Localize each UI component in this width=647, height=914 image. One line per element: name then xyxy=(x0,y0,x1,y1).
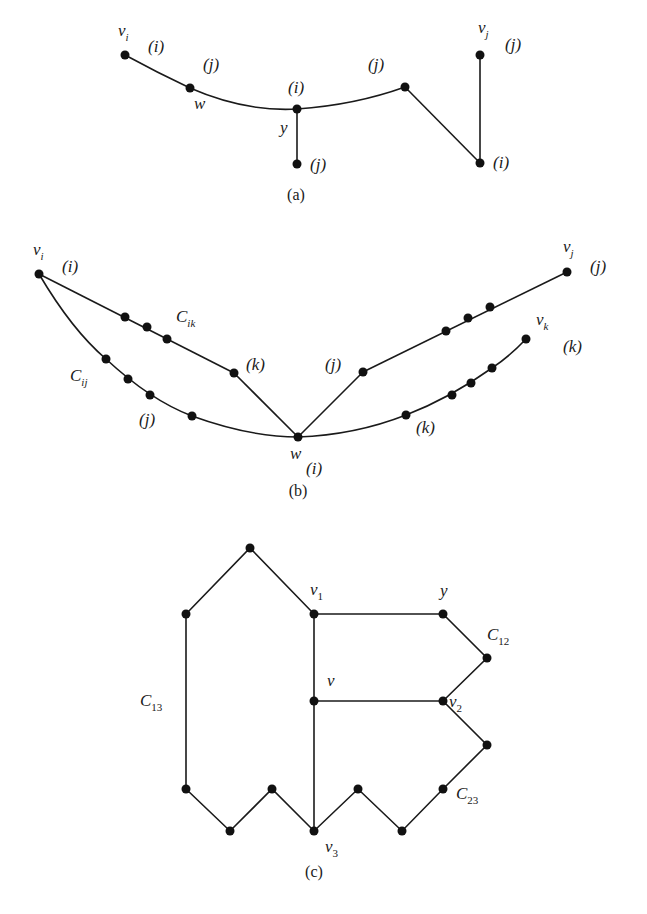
graph-vertex-w xyxy=(186,84,195,93)
graph-vertex-v2 xyxy=(439,697,448,706)
graph-vertex-k1 xyxy=(448,391,457,400)
graph-vertex-v1 xyxy=(310,610,319,619)
graph-vertex-pj xyxy=(401,83,410,92)
graph-vertex-b2 xyxy=(226,827,235,836)
graph-vertex-vj xyxy=(563,268,572,277)
graph-vertex-cik3 xyxy=(163,335,172,344)
graph-vertex-k2 xyxy=(467,379,476,388)
vertex-label: (j) xyxy=(203,55,219,74)
graph-vertex-vi xyxy=(121,51,130,60)
graph-vertex-vk xyxy=(522,335,531,344)
vertex-label: y xyxy=(438,581,448,600)
vertex-label: (i) xyxy=(62,257,78,276)
graph-vertex-vi xyxy=(35,270,44,279)
graph-figure: vi(i)(j)w(i)y(j)(j)vj(j)(i)(a) vi(i)Cik(… xyxy=(0,0,647,914)
vertex-label: w xyxy=(290,444,302,463)
graph-vertex-cik1 xyxy=(121,313,130,322)
graph-vertex-r2 xyxy=(483,741,492,750)
graph-vertex-v xyxy=(310,697,319,706)
graph-vertex-w xyxy=(294,433,303,442)
graph-vertex-v3 xyxy=(310,827,319,836)
vertex-label: (j) xyxy=(325,355,341,374)
graph-vertex-c23 xyxy=(439,785,448,794)
vertex-label: (j) xyxy=(590,257,606,276)
graph-vertex-c12 xyxy=(483,654,492,663)
graph-vertex-b5 xyxy=(354,785,363,794)
graph-vertex-b3 xyxy=(268,785,277,794)
graph-vertex-k3 xyxy=(488,364,497,373)
graph-vertex-j3 xyxy=(486,303,495,312)
graph-vertex-cij4 xyxy=(188,412,197,421)
vertex-label: (i) xyxy=(493,153,509,172)
graph-vertex-yb xyxy=(293,160,302,169)
vertex-label: (j) xyxy=(310,155,326,174)
vertex-label: (k) xyxy=(416,418,435,437)
vertex-label: w xyxy=(194,94,206,113)
graph-vertex-cij2 xyxy=(124,375,133,384)
vertex-label: (i) xyxy=(288,78,304,97)
graph-vertex-y xyxy=(293,105,302,114)
graph-vertex-pj xyxy=(359,368,368,377)
vertex-label: (k) xyxy=(246,355,265,374)
graph-vertex-b1 xyxy=(182,785,191,794)
vertex-label: (i) xyxy=(148,37,164,56)
vertex-label: (k) xyxy=(563,337,582,356)
graph-vertex-y xyxy=(439,610,448,619)
vertex-label: (i) xyxy=(306,459,322,478)
panel-caption: (b) xyxy=(289,482,308,500)
vertex-label: y xyxy=(278,118,288,137)
graph-vertex-cij1 xyxy=(102,355,111,364)
panel-caption: (c) xyxy=(305,863,323,881)
graph-vertex-b6 xyxy=(398,827,407,836)
figure-background xyxy=(0,0,647,914)
vertex-label: (j) xyxy=(505,35,521,54)
graph-vertex-j1 xyxy=(442,327,451,336)
graph-vertex-j2 xyxy=(464,314,473,323)
graph-vertex-pk xyxy=(230,369,239,378)
graph-vertex-cij3 xyxy=(146,391,155,400)
vertex-label: (j) xyxy=(139,410,155,429)
graph-vertex-pi xyxy=(476,159,485,168)
graph-vertex-vj xyxy=(476,51,485,60)
vertex-label: (j) xyxy=(368,55,384,74)
panel-caption: (a) xyxy=(287,186,305,204)
graph-vertex-cik2 xyxy=(143,323,152,332)
graph-vertex-pk2 xyxy=(402,411,411,420)
graph-vertex-top xyxy=(246,544,255,553)
graph-vertex-tl xyxy=(182,610,191,619)
vertex-label: v xyxy=(327,671,335,690)
